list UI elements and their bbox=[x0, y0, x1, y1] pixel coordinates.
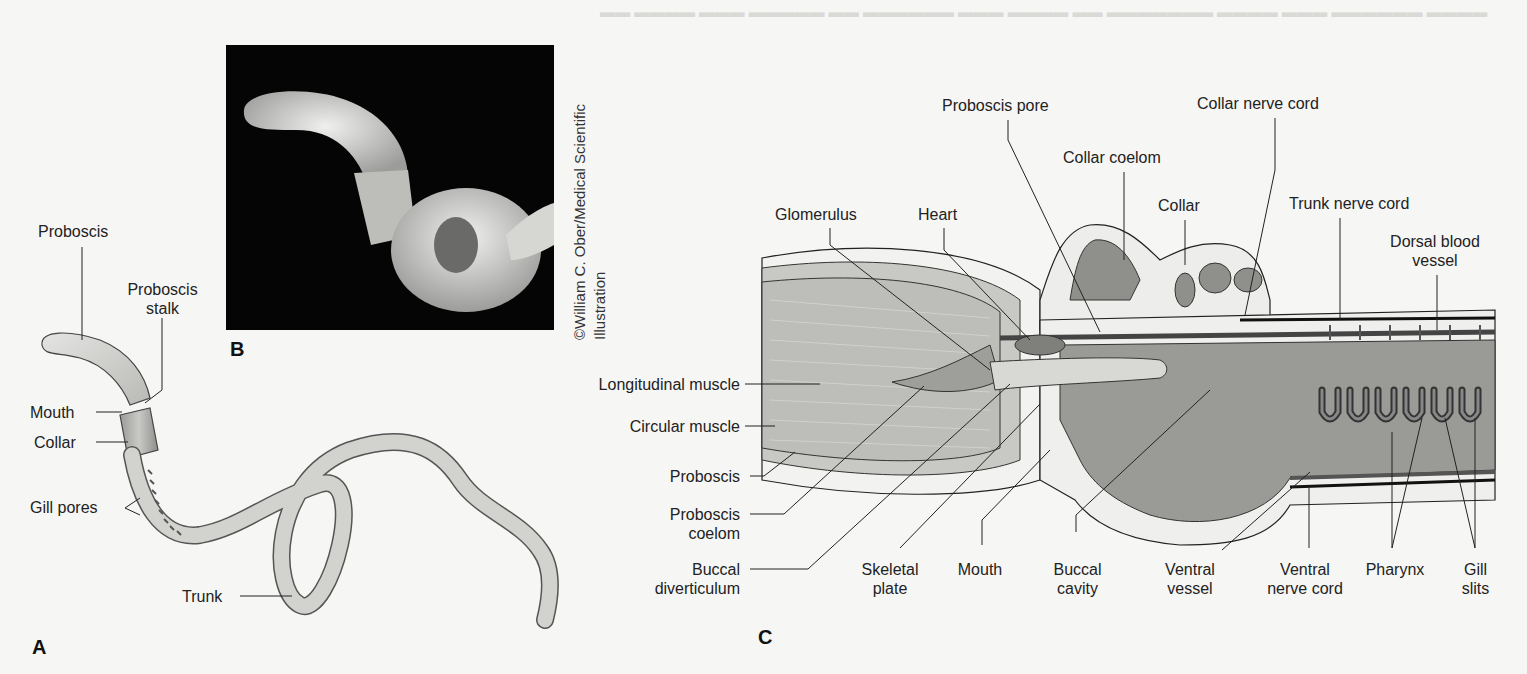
panel-label-a: A bbox=[32, 636, 46, 659]
label-c-collar: Collar bbox=[1158, 196, 1200, 215]
proboscis-shape bbox=[42, 333, 150, 405]
label-a-proboscis: Proboscis bbox=[38, 222, 108, 241]
label-c-buccal-cavity: Buccal cavity bbox=[1040, 560, 1115, 598]
label-c-proboscis-coelom: Proboscis coelom bbox=[540, 505, 740, 543]
label-c-glomerulus: Glomerulus bbox=[775, 205, 857, 224]
label-a-collar: Collar bbox=[34, 433, 76, 452]
label-c-buccal-diverticulum: Buccal diverticulum bbox=[540, 560, 740, 598]
label-a-proboscis-stalk: Proboscis stalk bbox=[115, 280, 210, 318]
label-c-gill-slits: Gill slits bbox=[1448, 560, 1503, 598]
label-c-mouth: Mouth bbox=[945, 560, 1015, 579]
label-c-proboscis: Proboscis bbox=[540, 467, 740, 486]
photo-b-acorn-worm bbox=[226, 45, 554, 330]
label-c-trunk-nerve-cord: Trunk nerve cord bbox=[1289, 194, 1409, 213]
label-c-circular-muscle: Circular muscle bbox=[540, 417, 740, 436]
label-a-trunk: Trunk bbox=[182, 587, 222, 606]
label-c-pharynx: Pharynx bbox=[1355, 560, 1435, 579]
panel-c-cross-section bbox=[762, 225, 1495, 545]
label-a-gill-pores: Gill pores bbox=[30, 498, 98, 517]
label-c-proboscis-pore: Proboscis pore bbox=[942, 96, 1049, 115]
label-a-mouth: Mouth bbox=[30, 403, 74, 422]
label-c-heart: Heart bbox=[918, 205, 957, 224]
panel-label-b: B bbox=[230, 338, 244, 361]
photo-worm-silhouette bbox=[226, 45, 554, 330]
label-c-ventral-vessel: Ventral vessel bbox=[1150, 560, 1230, 598]
image-credit: ©William C. Ober/Medical Scientific Illu… bbox=[570, 104, 610, 340]
label-c-dorsal-blood-vessel: Dorsal blood vessel bbox=[1370, 232, 1500, 270]
label-c-collar-nerve-cord: Collar nerve cord bbox=[1197, 94, 1319, 113]
panel-label-c: C bbox=[758, 626, 772, 649]
label-c-collar-coelom: Collar coelom bbox=[1063, 148, 1161, 167]
label-c-longitudinal-muscle: Longitudinal muscle bbox=[540, 375, 740, 394]
label-c-ventral-nerve-cord: Ventral nerve cord bbox=[1255, 560, 1355, 598]
label-c-skeletal-plate: Skeletal plate bbox=[850, 560, 930, 598]
